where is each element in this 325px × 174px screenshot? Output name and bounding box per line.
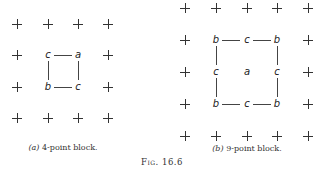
grid-plus-icon (303, 3, 313, 13)
edge-line (253, 104, 271, 105)
node-label: b (274, 35, 280, 45)
grid-plus-icon (180, 3, 190, 13)
grid-plus-icon (303, 35, 313, 45)
grid-plus-icon (272, 3, 282, 13)
grid-plus-icon (12, 113, 22, 123)
edge-line (78, 61, 79, 80)
edge-line (253, 40, 271, 41)
node-label: a (244, 67, 250, 77)
grid-plus-icon (180, 131, 190, 141)
edge-line (222, 40, 240, 41)
panel-caption: (a) 4-point block. (28, 143, 97, 152)
edge-line (54, 55, 72, 56)
panel-caption-text: 9-point block. (226, 144, 282, 153)
grid-plus-icon (43, 19, 53, 29)
grid-plus-icon (73, 113, 83, 123)
edge-line (216, 46, 217, 65)
grid-plus-icon (211, 3, 221, 13)
grid-plus-icon (103, 113, 113, 123)
grid-plus-icon (73, 19, 83, 29)
grid-plus-icon (180, 67, 190, 77)
grid-plus-icon (103, 19, 113, 29)
panel-caption-text: 4-point block. (42, 143, 98, 152)
panel-tag: (b) (212, 144, 223, 153)
edge-line (277, 78, 278, 97)
node-label: c (274, 67, 280, 77)
node-label: a (75, 50, 81, 60)
node-label: c (244, 99, 250, 109)
node-label: b (213, 35, 219, 45)
figure-number: Fig. 16.6 (141, 157, 183, 167)
grid-plus-icon (303, 67, 313, 77)
node-label: c (213, 67, 219, 77)
edge-line (48, 61, 49, 80)
grid-plus-icon (242, 131, 252, 141)
node-label: b (213, 99, 219, 109)
grid-plus-icon (303, 99, 313, 109)
grid-plus-icon (103, 50, 113, 60)
grid-plus-icon (12, 50, 22, 60)
grid-plus-icon (43, 113, 53, 123)
grid-plus-icon (180, 35, 190, 45)
grid-plus-icon (242, 3, 252, 13)
node-label: b (274, 99, 280, 109)
panel-tag: (a) (28, 143, 39, 152)
grid-plus-icon (211, 131, 221, 141)
edge-line (277, 46, 278, 65)
edge-line (54, 87, 72, 88)
edge-line (216, 78, 217, 97)
grid-plus-icon (103, 82, 113, 92)
panel-caption: (b) 9-point block. (212, 144, 282, 153)
grid-plus-icon (180, 99, 190, 109)
node-label: b (45, 82, 51, 92)
node-label: c (244, 35, 250, 45)
grid-plus-icon (12, 19, 22, 29)
grid-plus-icon (303, 131, 313, 141)
node-label: c (45, 50, 51, 60)
node-label: c (75, 82, 81, 92)
grid-plus-icon (12, 82, 22, 92)
edge-line (222, 104, 240, 105)
grid-plus-icon (272, 131, 282, 141)
